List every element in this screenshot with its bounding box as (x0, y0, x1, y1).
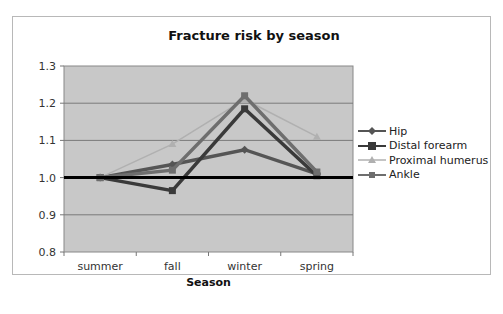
legend-marker-icon (358, 141, 386, 151)
legend-marker-icon (358, 126, 386, 136)
y-tick-label: 1.1 (39, 134, 57, 147)
y-tick-label: 1.0 (39, 172, 57, 185)
legend-item: Hip (358, 124, 488, 139)
plot-area (64, 66, 353, 252)
data-point (313, 169, 320, 176)
data-point (241, 105, 248, 112)
data-point (169, 187, 176, 194)
legend-item: Ankle (358, 168, 488, 183)
y-tick-label: 1.2 (39, 97, 57, 110)
legend-marker-icon (358, 155, 386, 165)
y-tick-label: 1.3 (39, 60, 57, 73)
data-point (241, 92, 248, 99)
x-tick-label: fall (164, 260, 181, 273)
legend-marker-icon (358, 170, 386, 180)
x-tick-label: winter (227, 260, 262, 273)
y-tick-label: 0.8 (39, 246, 57, 259)
chart-legend: HipDistal forearmProximal humerusAnkle (358, 124, 488, 182)
x-axis-title: Season (186, 276, 231, 289)
x-tick-label: summer (77, 260, 123, 273)
data-point (169, 167, 176, 174)
legend-item: Proximal humerus (358, 153, 488, 168)
legend-label: Proximal humerus (389, 154, 488, 167)
legend-label: Hip (389, 125, 407, 138)
legend-label: Distal forearm (389, 139, 467, 152)
legend-item: Distal forearm (358, 139, 488, 154)
x-tick-label: spring (300, 260, 334, 273)
legend-label: Ankle (389, 168, 420, 181)
y-tick-label: 0.9 (39, 209, 57, 222)
